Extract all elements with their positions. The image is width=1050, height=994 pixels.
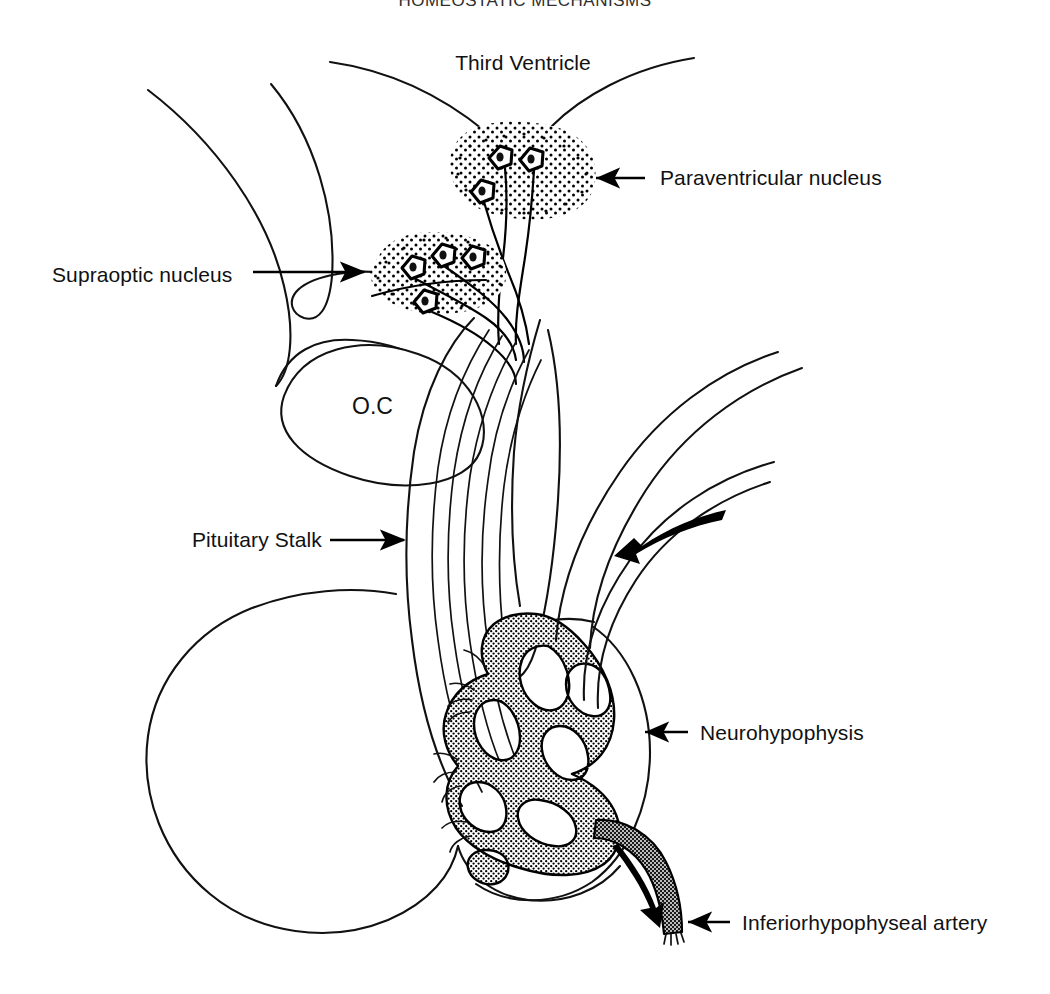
label-optic-chiasm: O.C (352, 393, 393, 419)
label-third-ventricle: Third Ventricle (455, 51, 591, 74)
label-inferiorhypophyseal-artery: Inferiorhypophyseal artery (742, 911, 988, 934)
label-paraventricular-nucleus: Paraventricular nucleus (660, 166, 882, 189)
label-supraoptic-nucleus: Supraoptic nucleus (52, 263, 232, 286)
label-neurohypophysis: Neurohypophysis (700, 721, 864, 744)
label-pituitary-stalk: Pituitary Stalk (192, 528, 322, 551)
figure-root: HOMEOSTATIC MECHANISMS (0, 0, 1050, 994)
anatomy-diagram: Third Ventricle Paraventricular nucleus … (0, 0, 1050, 994)
